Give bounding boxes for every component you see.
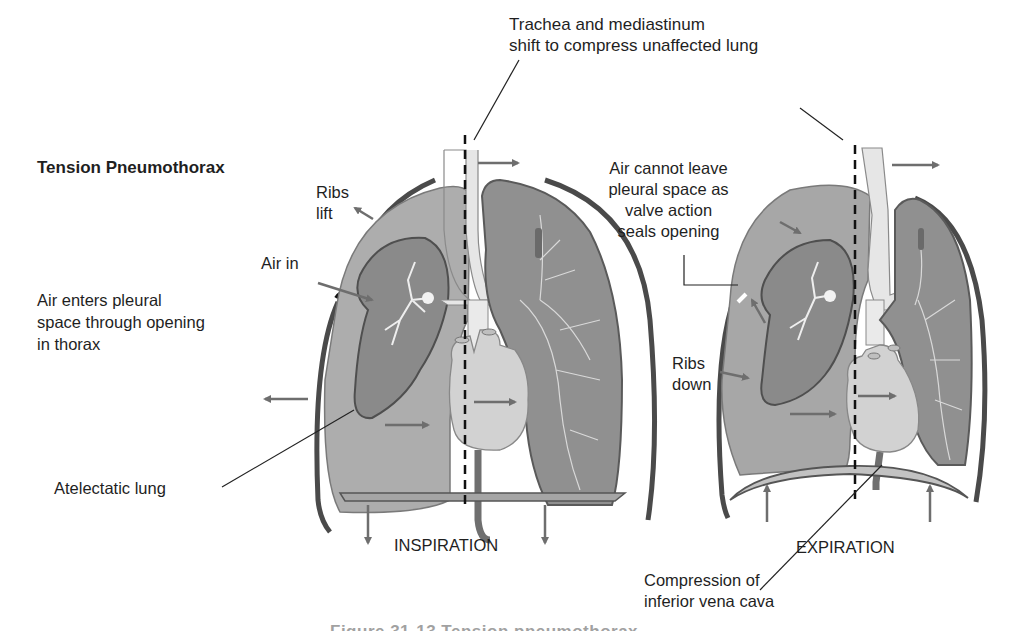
air-in-label: Air in: [261, 253, 299, 273]
mediastinal-shift-line-2: shift to compress unaffected lung: [509, 35, 758, 56]
air-cannot-leave-line-1: Air cannot leave: [592, 158, 745, 179]
air-cannot-leave-line-2: pleural space as: [592, 179, 745, 200]
ivc-leader: [760, 465, 882, 590]
air-enters-line-1: Air enters pleural: [37, 289, 205, 311]
ribs-lift-label: Ribs lift: [316, 182, 349, 224]
ribs-down-line-2: down: [672, 374, 711, 395]
atelectatic-lung-label: Atelectatic lung: [54, 478, 166, 498]
air-cannot-leave-line-4: seals opening: [592, 221, 745, 242]
ribs-down-line-1: Ribs: [672, 353, 711, 374]
air-enters-line-3: in thorax: [37, 333, 205, 355]
inspiration-panel: [222, 60, 655, 543]
inspiration-label: INSPIRATION: [394, 535, 498, 555]
mediastinal-shift-label: Trachea and mediastinum shift to compres…: [509, 14, 758, 56]
figure-title: Tension Pneumothorax: [37, 158, 225, 178]
air-enters-label: Air enters pleural space through opening…: [37, 289, 205, 355]
ribs-lift-line-2: lift: [316, 203, 349, 224]
mediastinal-shift-leader: [474, 60, 519, 140]
ivc-compression-line-2: inferior vena cava: [644, 591, 774, 612]
ivc-compression-label: Compression of inferior vena cava: [644, 570, 774, 612]
valve-leader: [684, 255, 738, 285]
air-cannot-leave-label: Air cannot leave pleural space as valve …: [592, 158, 745, 242]
ribs-lift-arrow: [355, 208, 373, 219]
ribs-lift-line-1: Ribs: [316, 182, 349, 203]
mediastinal-shift-leader-2: [800, 108, 843, 140]
mediastinal-shift-line-1: Trachea and mediastinum: [509, 14, 758, 35]
air-enters-line-2: space through opening: [37, 311, 205, 333]
ribs-down-label: Ribs down: [672, 353, 711, 395]
ivc-compression-line-1: Compression of: [644, 570, 774, 591]
expiration-label: EXPIRATION: [796, 537, 895, 557]
air-cannot-leave-line-3: valve action: [592, 200, 745, 221]
diaphragm-flat: [340, 493, 625, 501]
